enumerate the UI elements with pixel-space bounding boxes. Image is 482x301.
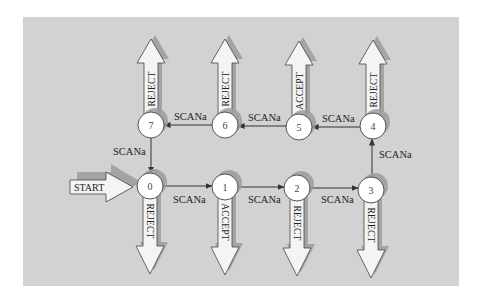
- outcome-arrow-1: ACCEPT: [211, 193, 243, 275]
- edge-label-6-7: SCANa: [174, 111, 207, 122]
- state-label-4: 4: [371, 121, 376, 132]
- edge-label-5-6: SCANa: [248, 112, 281, 123]
- outcome-arrow-5: ACCEPT: [285, 37, 317, 117]
- outcome-label-6: REJECT: [221, 72, 231, 107]
- start-arrow: START: [70, 164, 141, 202]
- state-label-2: 2: [295, 183, 300, 194]
- state-node-6: 6: [212, 108, 242, 138]
- outcome-label-2: REJECT: [292, 206, 302, 241]
- state-node-5: 5: [286, 110, 316, 140]
- outcome-label-5: ACCEPT: [295, 72, 305, 110]
- state-label-1: 1: [223, 182, 228, 193]
- outcome-arrow-4: REJECT: [359, 36, 391, 116]
- outcome-label-7: REJECT: [147, 72, 157, 107]
- edge-label-0-1: SCANa: [173, 194, 206, 205]
- outcome-label-0: REJECT: [145, 204, 155, 239]
- outcome-arrow-3: REJECT: [357, 196, 389, 278]
- outcome-arrow-7: REJECT: [137, 35, 169, 115]
- edge-label-4-5: SCANa: [322, 113, 355, 124]
- state-node-3: 3: [358, 173, 388, 203]
- state-label-6: 6: [223, 120, 228, 131]
- state-node-0: 0: [137, 169, 167, 199]
- state-label-3: 3: [369, 185, 374, 196]
- state-node-1: 1: [212, 170, 242, 200]
- state-node-7: 7: [138, 108, 168, 138]
- outcome-arrow-2: REJECT: [283, 194, 315, 276]
- edge-label-7-0: SCANa: [113, 146, 146, 157]
- edge-label-3-4: SCANa: [379, 149, 412, 160]
- outcome-arrow-0: REJECT: [136, 192, 168, 274]
- outcome-label-4: REJECT: [369, 73, 379, 108]
- state-node-4: 4: [360, 109, 390, 139]
- outcome-label-1: ACCEPT: [220, 203, 230, 241]
- edge-label-2-3: SCANa: [321, 194, 354, 205]
- state-node-2: 2: [284, 171, 314, 201]
- state-label-0: 0: [148, 181, 153, 192]
- state-label-5: 5: [297, 122, 302, 133]
- state-diagram: START REJECTACCEPTREJECTREJECT REJECTACC…: [0, 0, 482, 301]
- start-label: START: [74, 182, 104, 193]
- outcome-label-3: REJECT: [366, 208, 376, 243]
- outcome-arrow-6: REJECT: [211, 35, 243, 115]
- edge-label-1-2: SCANa: [248, 194, 281, 205]
- state-label-7: 7: [149, 120, 154, 131]
